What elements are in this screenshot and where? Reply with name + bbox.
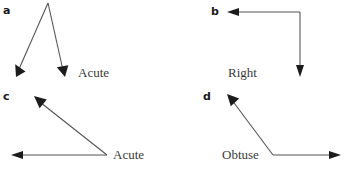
panel-label-d: d xyxy=(203,91,211,102)
angle-label-b-right: Right xyxy=(228,66,257,79)
panel-label-c: c xyxy=(3,91,10,102)
panel-a-ray-down-left xyxy=(20,3,49,68)
angle-types-figure: a b c d Acute Right Acute Obtuse xyxy=(0,0,348,169)
angle-label-c-acute: Acute xyxy=(113,148,144,161)
panel-a-arrow-down-right xyxy=(57,65,69,77)
panel-c-arrow-left xyxy=(11,151,23,159)
panel-c-angle xyxy=(11,96,107,159)
panel-d-arrow-up-left xyxy=(227,94,239,106)
panel-d-arrow-right xyxy=(329,151,341,159)
angle-label-a-acute: Acute xyxy=(78,66,109,79)
panel-a-ray-down-right xyxy=(48,3,63,68)
panel-b-arrow-left xyxy=(227,8,239,16)
panel-label-b: b xyxy=(211,6,219,17)
angle-label-d-obtuse: Obtuse xyxy=(222,148,259,161)
panel-b-arrow-down xyxy=(296,65,304,77)
panel-label-a: a xyxy=(3,5,10,16)
angle-rays-svg xyxy=(0,0,348,169)
panel-c-ray-up-left xyxy=(41,103,108,156)
panel-a-angle xyxy=(15,3,68,77)
